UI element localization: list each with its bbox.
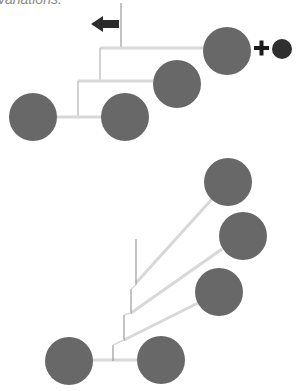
bottom-tree — [45, 158, 267, 385]
left-arrow-icon — [91, 16, 119, 32]
plus-icon — [254, 41, 269, 56]
top-tree — [9, 3, 292, 141]
bottom-node-i — [137, 336, 185, 384]
added-node — [272, 39, 292, 59]
bottom-link-34 — [124, 313, 131, 315]
bottom-node-h — [45, 337, 93, 385]
top-node-c — [9, 93, 57, 141]
bottom-link-23 — [131, 285, 136, 289]
bottom-node-e — [204, 158, 252, 206]
top-node-d — [101, 93, 149, 141]
bottom-node-f — [219, 212, 267, 260]
phylogenetic-tree-diagram — [0, 0, 296, 391]
top-node-b — [153, 60, 201, 108]
bottom-branch-e — [136, 199, 212, 283]
top-node-a — [203, 27, 251, 75]
bottom-node-g — [195, 268, 243, 316]
bottom-link-45 — [113, 340, 124, 345]
